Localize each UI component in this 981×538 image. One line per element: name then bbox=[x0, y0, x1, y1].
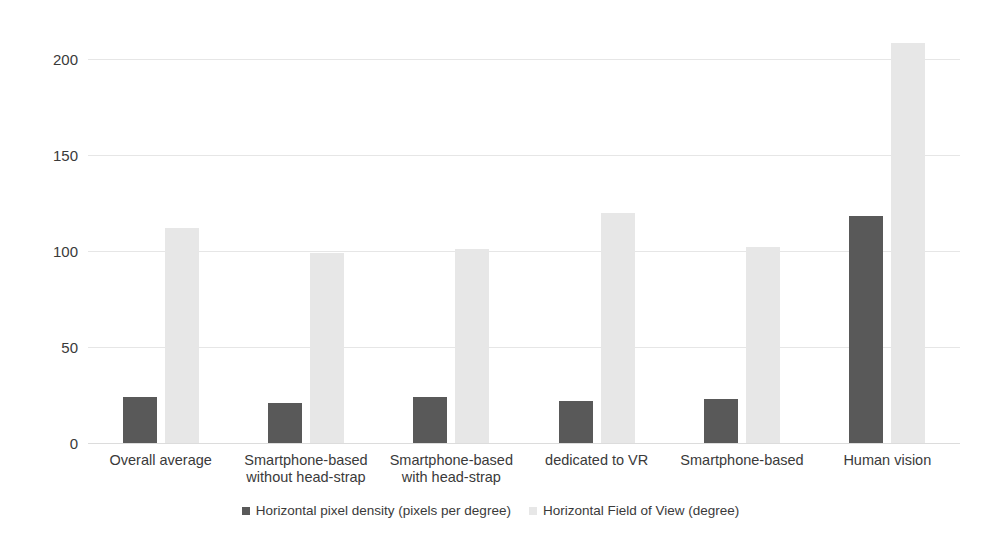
gridline-150 bbox=[88, 155, 960, 156]
legend-item[interactable]: Horizontal Field of View (degree) bbox=[529, 503, 739, 518]
gridline-200 bbox=[88, 59, 960, 60]
legend-item[interactable]: Horizontal pixel density (pixels per deg… bbox=[242, 503, 511, 518]
x-tick-label: Smartphone-based without head-strap bbox=[233, 452, 378, 486]
legend-swatch-icon bbox=[529, 507, 537, 515]
chart-legend: Horizontal pixel density (pixels per deg… bbox=[0, 503, 981, 518]
plot-area bbox=[88, 30, 960, 443]
gridline-50 bbox=[88, 347, 960, 348]
gridline-0 bbox=[88, 443, 960, 444]
bar bbox=[559, 401, 593, 443]
x-tick-label: dedicated to VR bbox=[524, 452, 669, 469]
bar bbox=[165, 228, 199, 443]
legend-swatch-icon bbox=[242, 507, 250, 515]
bar bbox=[849, 216, 883, 443]
y-tick-label: 150 bbox=[18, 147, 78, 162]
legend-label: Horizontal Field of View (degree) bbox=[543, 503, 739, 518]
y-axis: 050100150200 bbox=[0, 30, 78, 443]
y-tick-label: 50 bbox=[18, 339, 78, 354]
y-tick-label: 200 bbox=[18, 51, 78, 66]
bar bbox=[455, 249, 489, 443]
y-tick-label: 100 bbox=[18, 243, 78, 258]
bar bbox=[704, 399, 738, 443]
bar bbox=[413, 397, 447, 443]
bar bbox=[601, 213, 635, 444]
x-tick-label: Smartphone-based with head-strap bbox=[379, 452, 524, 486]
gridline-100 bbox=[88, 251, 960, 252]
x-tick-label: Smartphone-based bbox=[669, 452, 814, 469]
y-tick-label: 0 bbox=[18, 436, 78, 451]
bar bbox=[746, 247, 780, 443]
bar bbox=[268, 403, 302, 443]
x-tick-label: Overall average bbox=[88, 452, 233, 469]
legend-label: Horizontal pixel density (pixels per deg… bbox=[256, 503, 511, 518]
x-tick-label: Human vision bbox=[815, 452, 960, 469]
bar-chart: 050100150200 Overall averageSmartphone-b… bbox=[0, 0, 981, 538]
bar bbox=[123, 397, 157, 443]
bar bbox=[891, 43, 925, 443]
bar bbox=[310, 253, 344, 443]
